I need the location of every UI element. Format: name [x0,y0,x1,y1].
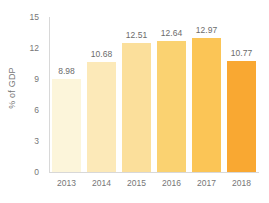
bar-slot[interactable]: 10.68 [84,17,119,172]
bar[interactable] [122,43,151,172]
x-axis-tick-label: 2016 [154,178,189,188]
bar-slot[interactable]: 8.98 [49,17,84,172]
y-axis-tick-label: 0 [34,167,39,177]
bar-value-label: 10.68 [84,49,119,59]
y-axis-tick-label: 12 [30,43,39,53]
plot-area: 8.9810.6812.5112.6412.9710.77 [49,17,259,172]
y-axis-tick-labels: 15129630 [0,17,45,173]
bar-slot[interactable]: 10.77 [224,17,259,172]
bar[interactable] [227,61,256,172]
bar[interactable] [87,62,116,172]
bar-slot[interactable]: 12.51 [119,17,154,172]
y-axis-tick-label: 6 [34,105,39,115]
bar-chart: % of GDP 15129630 8.9810.6812.5112.6412.… [0,0,269,203]
x-axis-tick-labels: 201320142015201620172018 [49,178,259,194]
x-axis-line [49,172,259,173]
x-axis-tick-label: 2014 [84,178,119,188]
bar-slot[interactable]: 12.97 [189,17,224,172]
x-axis-tick-label: 2018 [224,178,259,188]
bar-value-label: 10.77 [224,48,259,58]
x-axis-tick-label: 2013 [49,178,84,188]
x-axis-tick-label: 2015 [119,178,154,188]
y-axis-tick-label: 15 [30,12,39,22]
bar-value-label: 12.64 [154,28,189,38]
bar-slot[interactable]: 12.64 [154,17,189,172]
y-axis-tick-label: 3 [34,136,39,146]
bar[interactable] [52,79,81,172]
bar-value-label: 8.98 [49,66,84,76]
y-axis-tick-label: 9 [34,74,39,84]
bar-series: 8.9810.6812.5112.6412.9710.77 [49,17,259,172]
bar[interactable] [192,38,221,172]
bar-value-label: 12.51 [119,30,154,40]
x-axis-tick-label: 2017 [189,178,224,188]
bar[interactable] [157,41,186,172]
bar-value-label: 12.97 [189,25,224,35]
